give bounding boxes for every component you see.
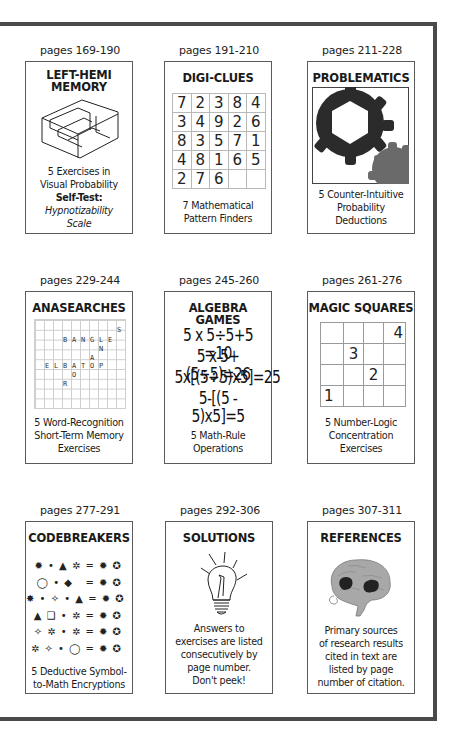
grid-letter: P <box>99 362 103 370</box>
card-title: DIGI-CLUES <box>165 72 271 84</box>
grid-letter: B <box>63 336 67 344</box>
grid-letter: A <box>72 362 76 370</box>
lightbulb-icon <box>199 550 249 618</box>
card-description: 5 Math-Rule Operations <box>165 429 271 455</box>
brain-icon <box>326 556 396 618</box>
gears-icon <box>312 87 409 184</box>
card-title: ANASEARCHES <box>26 302 132 314</box>
card-description: 5 Exercises in Visual Probability Self-T… <box>26 165 132 230</box>
symbol-cipher: ✹ • ▲ ✲ = ✹ ✪ ◯ • ◆ = ✹ ✪ ✸ • ✧ • ▲ = ✹ … <box>26 558 132 657</box>
card-description: 5 Deductive Symbol- to-Math Encryptions <box>26 665 132 691</box>
card-description: Primary sources of research results cite… <box>308 624 414 689</box>
grid-letter: S <box>117 326 121 334</box>
grid-letter: R <box>63 380 67 388</box>
page-range: pages 211-228 <box>307 44 417 57</box>
card-description: Answers to exercises are listed consecut… <box>166 622 272 687</box>
page-range: pages 245-260 <box>164 274 274 287</box>
card-title: CODEBREAKERS <box>26 532 132 544</box>
page-range: pages 229-244 <box>25 274 135 287</box>
card-title: LEFT-HEMI MEMORY <box>26 69 132 93</box>
card-description: 5 Number-Logic Concentration Exercises <box>308 416 414 455</box>
number-grid: 72384 34926 83571 48165 276 <box>172 93 266 189</box>
page-range: pages 261-276 <box>307 274 417 287</box>
page-range: pages 292-306 <box>165 504 275 517</box>
word-search-grid: SBANGLENAELBATOPOR <box>34 319 126 409</box>
page-range: pages 277-291 <box>25 504 135 517</box>
equation: 5x[(5÷5)x5]=25 <box>175 368 262 386</box>
grid-letter: L <box>54 362 58 370</box>
grid-letter: T <box>81 362 85 370</box>
card-title: REFERENCES <box>308 532 414 544</box>
grid-letter: O <box>90 362 94 370</box>
page-range: pages 307-311 <box>307 504 417 517</box>
grid-letter: A <box>72 336 76 344</box>
card-title: ALGEBRA GAMES <box>165 302 271 326</box>
grid-letter: B <box>63 362 67 370</box>
grid-letter: E <box>108 336 112 344</box>
grid-letter: E <box>45 362 49 370</box>
grid-letter: O <box>72 371 76 379</box>
equation: 5-[(5 - 5)x5]=5 <box>175 389 262 425</box>
grid-letter: N <box>99 345 103 353</box>
grid-letter: G <box>90 336 94 344</box>
card-title: PROBLEMATICS <box>308 72 414 84</box>
card-description: 5 Word-Recognition Short-Term Memory Exe… <box>26 416 132 455</box>
magic-square-grid: 4 3 2 1 <box>320 322 406 407</box>
grid-letter: L <box>99 336 103 344</box>
card-title: MAGIC SQUARES <box>308 302 414 314</box>
grid-letter: A <box>90 354 94 362</box>
isometric-stairs-icon <box>40 98 120 160</box>
card-description: 7 Mathematical Pattern Finders <box>165 199 271 225</box>
card-title: SOLUTIONS <box>166 532 272 544</box>
page-range: pages 169-190 <box>25 44 135 57</box>
card-description: 5 Counter-Intuitive Probability Deductio… <box>308 188 414 227</box>
page-range: pages 191-210 <box>164 44 274 57</box>
grid-letter: N <box>81 336 85 344</box>
